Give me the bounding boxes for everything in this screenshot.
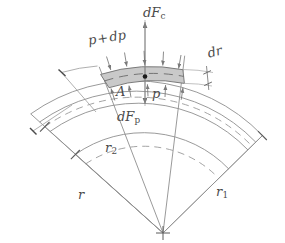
dr-dimension xyxy=(183,66,213,90)
label-radius-outer: r1 xyxy=(216,185,228,200)
dashed-arcs xyxy=(45,97,252,177)
label-radius-inner: r2 xyxy=(105,141,117,156)
label-radius-mean: r xyxy=(78,188,84,201)
dr-dimension-line xyxy=(207,66,209,90)
label-centrifugal-force: dFc xyxy=(143,6,165,21)
label-pressure-force: dFp xyxy=(117,110,140,125)
p-plus-dp-arrow xyxy=(163,52,164,66)
witness-arc-left xyxy=(62,66,98,73)
diagram-svg xyxy=(0,0,285,243)
p-plus-dp-arrow xyxy=(125,53,127,67)
label-pressure-inner: p xyxy=(152,87,160,100)
p-plus-dp-arrow xyxy=(107,57,111,71)
witness-tick-a xyxy=(59,70,66,77)
radius-inner-line xyxy=(75,155,163,234)
figure-canvas: dFc dFp p+dp p A dr r r2 r1 xyxy=(0,0,285,243)
element-center-dot xyxy=(143,74,148,79)
radial-lines xyxy=(31,56,263,233)
label-thickness-dr: dr xyxy=(206,43,223,59)
p-arrow xyxy=(147,84,148,96)
element-outer-arc xyxy=(40,91,256,142)
p-arrow xyxy=(165,85,166,97)
radius-outer-line xyxy=(163,136,263,234)
mean-dashed-arc xyxy=(45,97,252,146)
radius-dimensions xyxy=(40,122,267,233)
left-witness-lines xyxy=(30,66,98,135)
p-plus-dp-arrow xyxy=(179,55,181,69)
outer-boundary-arc xyxy=(31,81,263,136)
element-inner-arc xyxy=(50,103,248,150)
label-area: A xyxy=(116,85,125,98)
inner-boundary-arc xyxy=(75,133,229,170)
